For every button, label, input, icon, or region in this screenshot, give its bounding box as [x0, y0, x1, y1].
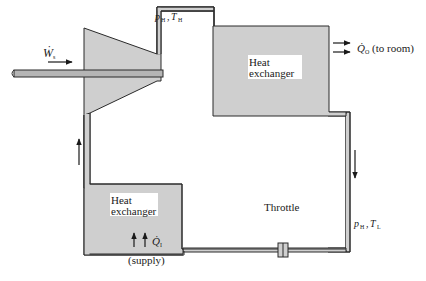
svg-text:,: ,	[167, 11, 170, 22]
svg-text:H: H	[360, 224, 365, 230]
throttle-label: Throttle	[264, 201, 300, 213]
svg-text:I: I	[160, 242, 162, 248]
cold-exchanger-label: Heat exchanger	[110, 193, 158, 217]
svg-text:(to room): (to room)	[372, 42, 414, 55]
svg-text:H: H	[178, 17, 183, 23]
svg-text:p: p	[353, 218, 359, 229]
throttle-valve	[278, 243, 288, 257]
svg-text:exchanger: exchanger	[249, 67, 295, 79]
svg-text:p: p	[154, 11, 160, 22]
svg-text:(supply): (supply)	[128, 254, 165, 267]
heat-out-label: Q̇ O (to room)	[357, 42, 414, 55]
svg-text:T: T	[370, 218, 377, 229]
shaft	[12, 70, 163, 77]
svg-text:,: ,	[366, 218, 369, 229]
heat-pump-diagram: Heat exchanger Heat exchanger Throttle Ẇ…	[0, 0, 426, 281]
work-label: Ẇ s	[43, 45, 56, 60]
svg-text:Q̇: Q̇	[152, 235, 160, 247]
svg-text:T: T	[171, 11, 178, 22]
svg-text:s: s	[53, 54, 56, 60]
svg-text:Q̇: Q̇	[357, 42, 365, 54]
svg-text:exchanger: exchanger	[111, 205, 157, 217]
state-label-low: p H , T L	[353, 218, 381, 230]
svg-text:L: L	[377, 224, 381, 230]
svg-text:H: H	[161, 17, 166, 23]
state-label-high: p H , T H	[154, 11, 183, 23]
svg-text:O: O	[365, 49, 370, 55]
hot-exchanger-label: Heat exchanger	[248, 55, 302, 79]
